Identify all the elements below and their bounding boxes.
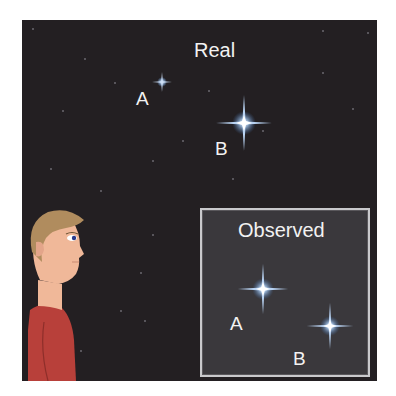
background-star xyxy=(114,82,116,84)
star-b-observed-label: B xyxy=(293,349,306,368)
star-a-observed-label: A xyxy=(230,314,243,333)
background-star xyxy=(140,272,142,274)
background-star xyxy=(32,28,34,30)
star-a-observed-icon xyxy=(236,262,290,316)
background-star xyxy=(152,160,154,162)
star-a-real-icon xyxy=(150,70,174,94)
star-b-real-label: B xyxy=(215,139,228,158)
background-star xyxy=(144,320,146,322)
background-star xyxy=(208,90,210,92)
observed-inset-box: Observed A B xyxy=(200,208,370,377)
background-star xyxy=(232,178,234,180)
star-b-observed-icon xyxy=(305,301,355,351)
background-star xyxy=(100,190,102,192)
background-star xyxy=(62,110,64,112)
background-star xyxy=(120,310,122,312)
background-star xyxy=(322,30,324,32)
observed-title: Observed xyxy=(238,220,325,240)
background-star xyxy=(352,108,354,110)
background-star xyxy=(322,72,324,74)
night-sky-panel: Real A B Observed xyxy=(22,20,377,381)
observer-person-icon xyxy=(22,200,97,381)
star-a-real-label: A xyxy=(136,89,149,108)
background-star xyxy=(152,234,154,236)
real-title: Real xyxy=(194,40,235,60)
background-star xyxy=(367,32,369,34)
background-star xyxy=(50,168,52,170)
background-star xyxy=(182,140,184,142)
background-star xyxy=(84,58,86,60)
